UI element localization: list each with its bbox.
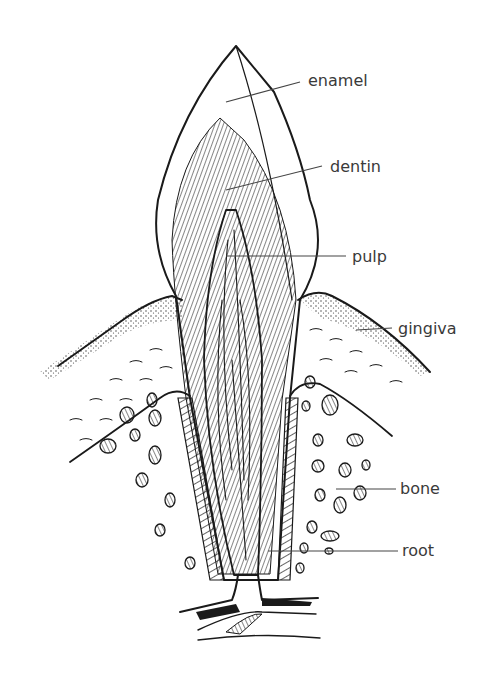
dentin bbox=[172, 118, 296, 574]
label-enamel: enamel bbox=[308, 71, 368, 90]
label-root: root bbox=[402, 541, 434, 560]
leader-enamel bbox=[226, 82, 300, 102]
gingiva-left bbox=[38, 296, 190, 460]
tooth-diagram: enamel dentin pulp gingiva bone root bbox=[0, 0, 492, 676]
label-pulp: pulp bbox=[352, 247, 387, 266]
gingiva-right bbox=[298, 293, 440, 420]
root-base bbox=[180, 575, 320, 640]
label-gingiva: gingiva bbox=[398, 319, 457, 338]
label-dentin: dentin bbox=[330, 157, 381, 176]
label-bone: bone bbox=[400, 479, 440, 498]
